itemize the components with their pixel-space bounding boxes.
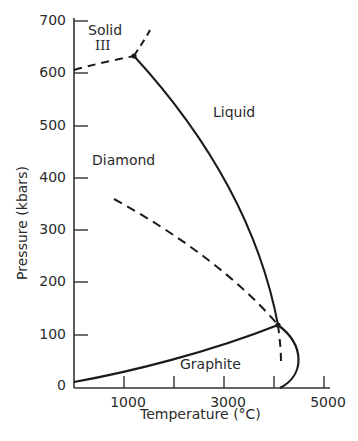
region-label-liquid: Liquid (213, 104, 255, 120)
region-label-diamond: Diamond (92, 152, 155, 168)
region-label-solid: Solid (88, 22, 122, 38)
metastable-melting-curve (278, 325, 281, 362)
y-tick-100: 100 (22, 326, 66, 342)
x-ticks (124, 376, 324, 388)
solid3-liquid-curve (134, 30, 150, 56)
triple-point-upper (131, 53, 136, 58)
diamond-solid3-curve (74, 56, 134, 70)
x-axis-title: Temperature (°C) (140, 406, 261, 422)
triple-point-lower (275, 322, 280, 327)
graphite-diamond-curve (74, 325, 278, 382)
y-axis-title: Pressure (kbars) (14, 163, 30, 283)
metastable-extension-curve (114, 199, 278, 325)
y-tick-600: 600 (22, 64, 66, 80)
y-tick-700: 700 (22, 12, 66, 28)
x-tick-5000: 5000 (298, 394, 358, 410)
region-label-solid-roman: III (95, 38, 110, 53)
diamond-liquid-curve (134, 56, 278, 325)
region-label-graphite: Graphite (180, 356, 241, 372)
y-tick-0: 0 (22, 377, 66, 393)
y-tick-500: 500 (22, 117, 66, 133)
